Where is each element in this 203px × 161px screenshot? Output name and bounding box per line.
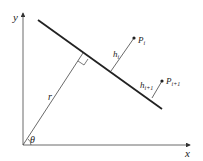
fitted-line xyxy=(38,20,162,109)
theta-label: θ xyxy=(30,134,35,145)
h-i1-label: hi+1 xyxy=(140,80,153,91)
p-i-label: Pi xyxy=(137,35,146,46)
normal-r xyxy=(23,53,83,145)
distance-h-i1 xyxy=(152,81,162,98)
r-label: r xyxy=(48,91,52,102)
point-p-i1 xyxy=(160,79,163,82)
p-i1-label: Pi+1 xyxy=(165,76,180,87)
x-axis-label: x xyxy=(184,147,190,159)
y-axis-label: y xyxy=(12,11,18,23)
point-p-i xyxy=(132,36,135,39)
right-angle-mark xyxy=(78,59,88,65)
diagram: y x r θ hi Pi hi+1 Pi+1 xyxy=(0,0,203,161)
h-i-label: hi xyxy=(113,49,120,60)
line-distance-diagram: y x r θ hi Pi hi+1 Pi+1 xyxy=(0,0,203,161)
